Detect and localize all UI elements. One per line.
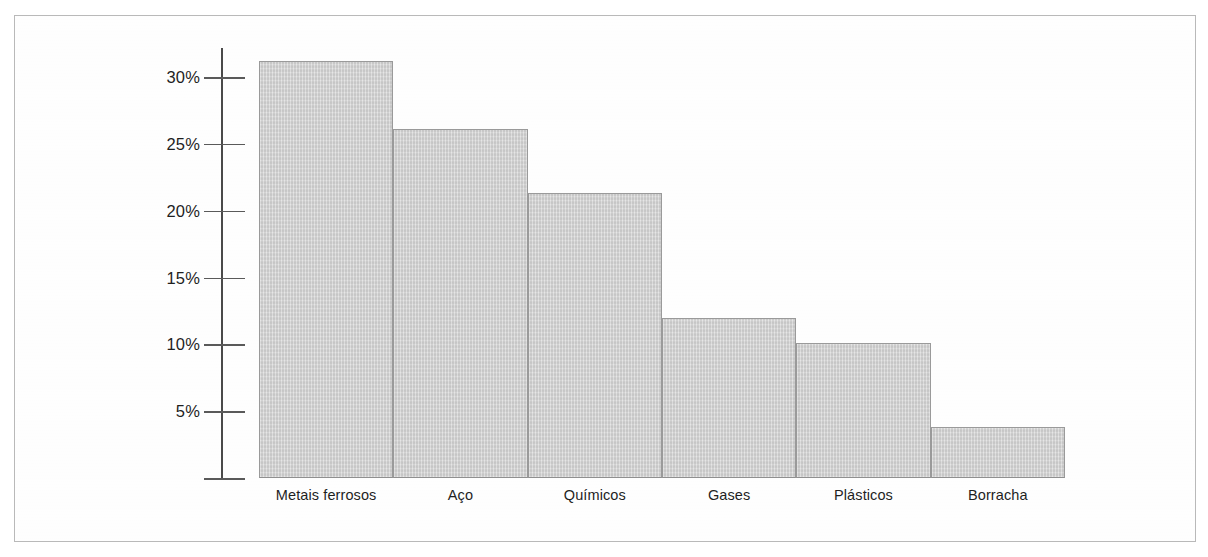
- figure-container: 30%25%20%15%10%5% Metais ferrososAçoQuím…: [0, 0, 1208, 557]
- bar: [393, 129, 527, 478]
- x-axis-category-label: Metais ferrosos: [259, 487, 393, 503]
- y-axis-tick-mark: [204, 478, 245, 480]
- y-axis-tick-mark: [204, 411, 245, 413]
- bar: [662, 318, 796, 478]
- y-axis-tick-mark: [204, 144, 245, 146]
- y-axis-line: [221, 48, 223, 480]
- y-axis-tick-label: 5%: [110, 402, 200, 421]
- x-axis-category-label: Plásticos: [796, 487, 930, 503]
- bar: [796, 343, 930, 478]
- bar: [931, 427, 1065, 478]
- y-axis-tick-mark: [204, 77, 245, 79]
- y-axis-tick-label: 15%: [110, 268, 200, 287]
- x-axis-category-label: Químicos: [528, 487, 662, 503]
- y-axis-tick-label: 20%: [110, 201, 200, 220]
- y-axis-tick-label: 25%: [110, 134, 200, 153]
- x-axis-category-label: Gases: [662, 487, 796, 503]
- bar-chart-plot: 30%25%20%15%10%5% Metais ferrososAçoQuím…: [0, 0, 1208, 557]
- y-axis-tick-mark: [204, 211, 245, 213]
- x-axis-category-label: Aço: [393, 487, 527, 503]
- y-axis-tick-label: 10%: [110, 335, 200, 354]
- x-axis-category-label: Borracha: [931, 487, 1065, 503]
- y-axis-tick-mark: [204, 344, 245, 346]
- bar: [528, 193, 662, 478]
- y-axis-tick-label: 30%: [110, 68, 200, 87]
- y-axis-tick-mark: [204, 278, 245, 280]
- bar: [259, 61, 393, 478]
